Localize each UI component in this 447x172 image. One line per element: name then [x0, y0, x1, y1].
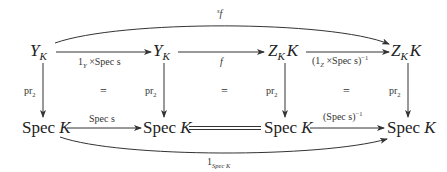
arrow-top-curve [55, 26, 389, 44]
node-top-1: YK [30, 42, 47, 59]
label-sub: Y [83, 62, 87, 69]
node-op: Spec [387, 118, 420, 137]
label-spec-s: (Spec s) [323, 111, 356, 122]
node-bottom-2: Spec K [143, 119, 192, 136]
node-bottom-4: Spec K [387, 119, 436, 136]
label-bottom-curve: 1Spec K [207, 157, 230, 167]
label-rest: Spec s [95, 56, 121, 67]
node-top-4: ZKK [391, 42, 421, 59]
node-bottom-1: Spec K [22, 119, 71, 136]
label-top-curve: sf [217, 9, 222, 19]
label-top-3: (1Z ×Spec s)−1 [312, 56, 368, 66]
label-bottom-3: (Spec s)−1 [323, 112, 362, 122]
node-op: Spec [143, 118, 176, 137]
label-rest: Spec s) [332, 55, 361, 66]
node-op: Spec [22, 118, 55, 137]
label-top-2: f [220, 57, 223, 67]
label-sub: Spec K [212, 162, 230, 169]
label-vert-1: pr2 [24, 86, 36, 96]
label-top-1: 1Y ×Spec s [78, 57, 121, 67]
label-vert-3: pr2 [266, 86, 278, 96]
node-arg: K [301, 118, 312, 137]
node-arg: K [180, 118, 191, 137]
label-bottom-1: Spec s [89, 114, 115, 124]
node-extra: K [287, 41, 298, 60]
node-top-2: YK [153, 42, 170, 59]
square-eq-3: = [343, 85, 350, 97]
label-vert-2: pr2 [145, 86, 157, 96]
node-sub: K [162, 50, 169, 62]
node-sub: K [39, 50, 46, 62]
square-eq-1: = [100, 85, 107, 97]
label-sup: −1 [356, 110, 363, 117]
label-sup: −1 [361, 54, 368, 61]
label-sub: 2 [153, 91, 156, 98]
label-vert-4: pr2 [389, 86, 401, 96]
node-sub: K [277, 50, 284, 62]
node-sub: K [400, 50, 407, 62]
label-sub: Z [320, 61, 324, 68]
label-sub: 2 [274, 91, 277, 98]
label-spec-s: Spec s [89, 113, 115, 124]
node-top-3: ZKK [268, 42, 298, 59]
label-sub: 2 [397, 91, 400, 98]
label-f: f [220, 56, 223, 67]
node-bottom-3: Spec K [264, 119, 313, 136]
node-op: Spec [264, 118, 297, 137]
label-sub: 2 [32, 91, 35, 98]
node-arg: K [424, 118, 435, 137]
node-arg: K [59, 118, 70, 137]
node-extra: K [410, 41, 421, 60]
square-eq-2: = [221, 85, 228, 97]
arrow-bottom-curve [60, 137, 387, 153]
label-main: f [220, 8, 223, 19]
